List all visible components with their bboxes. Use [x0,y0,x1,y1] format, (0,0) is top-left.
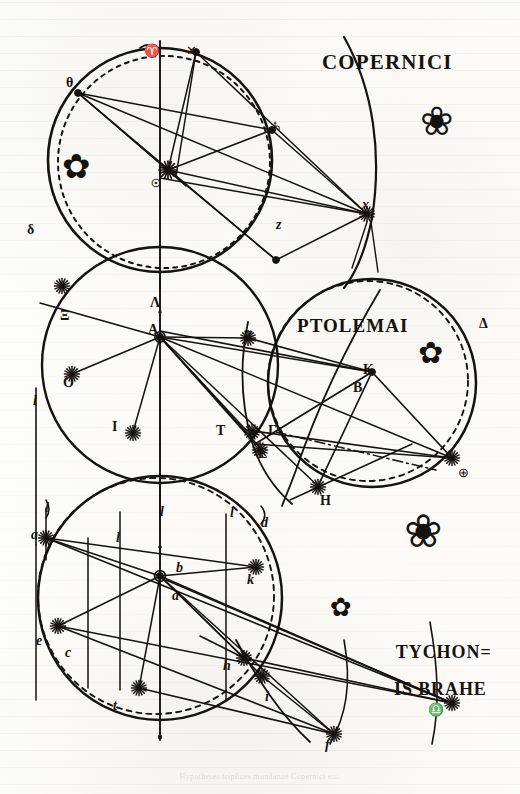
point-label-tychonic-system-3: e [36,634,42,648]
engraving-plate: COPERNICI PTOLEMAI TYCHON= IS BRAHE ✿ ❀ … [0,0,520,794]
point-label-tychonic-system-13: l [230,506,234,520]
point-label-ptolemaic-system-6: K [363,363,374,377]
point-label-tychonic-system-10: f [325,738,330,752]
point-label-ptolemaic-system-14: l [33,394,37,408]
point-label-ptolemaic-system-9: Γ [268,424,277,438]
point-label-ptolemaic-system-11: H [320,494,331,508]
plate-caption: Hypotheses triplices mundanae Copernici … [0,772,520,781]
point-label-tychonic-system-7: d [261,516,268,530]
ptolemaic-diagram-lines [36,247,476,545]
point-label-copernican-system-5: z [276,218,281,232]
point-label-ptolemaic-system-12: Δ [479,317,488,331]
copernican-diagram-lines [48,37,378,288]
node-I [126,426,141,441]
point-label-ptolemaic-system-10: E [258,447,267,461]
point-label-tychonic-system-8: h [223,659,231,673]
heading-tycho-line2: IS BRAHE [394,680,492,698]
point-label-ptolemaic-system-4: I [112,420,117,434]
point-label-copernican-system-3: δ [27,223,34,237]
point-label-ptolemaic-system-8: T [216,424,225,438]
point-label-tychonic-system-4: c [65,646,71,660]
point-label-ptolemaic-system-5: Z [244,330,253,344]
heading-ptolemai: PTOLEMAI [297,316,408,335]
point-label-copernican-system-7: ☉ [151,178,161,189]
point-label-ptolemaic-system-7: B [353,381,362,395]
node-theta [445,451,460,466]
point-label-ptolemaic-system-3: O [63,376,74,390]
point-label-tychonic-system-1: b [176,561,183,575]
point-label-tychonic-system-12: l [160,505,164,519]
point-label-ptolemaic-system-1: A [148,323,158,337]
point-label-tychonic-system-11: l [116,531,120,545]
point-label-tychonic-system-2: a [172,589,179,603]
point-label-copernican-system-4: ♄ [271,120,283,133]
point-label-tychonic-system-14: l [45,501,49,515]
point-label-tychonic-system-5: t [113,699,117,713]
node-xi [55,279,70,294]
heading-tychonis-brahe: TYCHON= IS BRAHE [374,625,492,735]
point-label-ptolemaic-system-0: Λ [150,296,160,310]
copernican-nodes [75,49,280,264]
point-label-tychonic-system-9: i [265,690,269,704]
node-T-gamma [245,425,260,440]
point-label-tychonic-system-0: a [31,528,38,542]
point-label-copernican-system-2: ✕ [186,44,197,57]
point-label-copernican-system-1: ♈ [144,44,160,57]
point-label-tychonic-system-15: ♎ [428,703,444,716]
point-label-copernican-system-0: θ [66,76,73,90]
point-label-tychonic-system-6: k [247,573,254,587]
point-label-ptolemaic-system-13: ⊕ [458,466,469,479]
point-label-copernican-system-6: x [362,198,369,212]
heading-tycho-line1: TYCHON= [396,642,492,662]
heading-copernici: COPERNICI [322,52,453,73]
point-label-ptolemaic-system-2: Ξ [60,309,69,323]
